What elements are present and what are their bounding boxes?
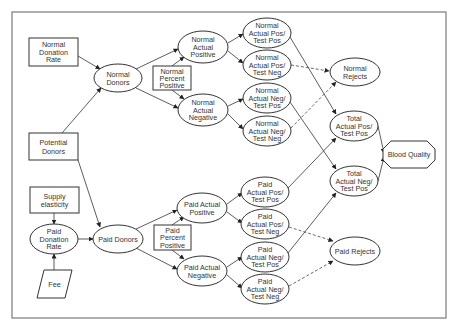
- svg-text:Test Pos: Test Pos: [253, 36, 281, 45]
- svg-text:Test Neg: Test Neg: [253, 68, 281, 77]
- svg-text:Positive: Positive: [189, 208, 214, 217]
- blood-donation-flow-diagram: Normal Donation Rate Potential Donors Su…: [0, 0, 455, 330]
- node-paid-donors: Paid Donors: [93, 225, 143, 253]
- node-paid-actual-neg-test-pos: Paid Actual Neg/ Test Pos: [241, 242, 289, 272]
- node-paid-donation-rate: Paid Donation Rate: [30, 224, 78, 254]
- node-paid-actual-pos-test-neg: Paid Actual Pos/ Test Neg: [241, 209, 289, 239]
- svg-text:Blood Quality: Blood Quality: [388, 150, 431, 159]
- node-supply-elasticity: Supply elasticity: [30, 187, 79, 213]
- node-total-actual-pos-test-pos: Total Actual Pos/ Test Pos: [330, 111, 378, 141]
- svg-text:Test Neg: Test Neg: [251, 292, 279, 301]
- node-normal-actual-positive: Normal Actual Positive: [178, 31, 228, 63]
- node-normal-actual-pos-test-pos: Normal Actual Pos/ Test Pos: [243, 18, 291, 48]
- svg-text:Negative: Negative: [189, 113, 217, 122]
- node-normal-actual-neg-test-pos: Normal Actual Neg/ Test Pos: [243, 83, 291, 113]
- node-paid-actual-positive: Paid Actual Positive: [177, 193, 227, 223]
- svg-text:Rate: Rate: [46, 242, 61, 251]
- svg-text:Rate: Rate: [46, 55, 61, 64]
- node-normal-rejects: Normal Rejects: [330, 58, 380, 86]
- svg-text:Fee: Fee: [48, 280, 60, 289]
- svg-text:Positive: Positive: [159, 81, 184, 90]
- node-normal-percent-positive: Normal Percent Positive: [153, 66, 191, 90]
- node-normal-donors: Normal Donors: [94, 64, 142, 92]
- svg-text:Positive: Positive: [160, 241, 185, 250]
- svg-text:Donors: Donors: [42, 147, 66, 156]
- svg-text:Test Pos: Test Pos: [251, 260, 279, 269]
- node-total-actual-neg-test-pos: Total Actual Neg/ Test Pos: [330, 166, 378, 196]
- svg-text:Rejects: Rejects: [343, 72, 367, 81]
- node-normal-actual-negative: Normal Actual Negative: [178, 94, 228, 126]
- svg-text:Test Neg: Test Neg: [253, 134, 281, 143]
- svg-text:Paid Donors: Paid Donors: [98, 235, 138, 244]
- node-paid-percent-positive: Paid Percent Positive: [154, 225, 191, 250]
- node-paid-rejects: Paid Rejects: [330, 237, 380, 265]
- svg-text:Positive: Positive: [190, 50, 215, 59]
- node-normal-actual-pos-test-neg: Normal Actual Pos/ Test Neg: [243, 50, 291, 80]
- node-paid-actual-neg-test-neg: Paid Actual Neg/ Test Neg: [241, 274, 289, 304]
- node-normal-donation-rate: Normal Donation Rate: [29, 38, 78, 66]
- svg-text:Test Pos: Test Pos: [340, 129, 368, 138]
- svg-text:elasticity: elasticity: [41, 200, 69, 209]
- node-paid-actual-pos-test-pos: Paid Actual Pos/ Test Pos: [241, 177, 289, 207]
- svg-text:Donors: Donors: [106, 78, 130, 87]
- node-normal-actual-neg-test-neg: Normal Actual Neg/ Test Neg: [243, 116, 291, 146]
- node-potential-donors: Potential Donors: [29, 133, 78, 160]
- svg-text:Negative: Negative: [188, 271, 216, 280]
- node-paid-actual-negative: Paid Actual Negative: [177, 256, 227, 286]
- svg-text:Paid Rejects: Paid Rejects: [335, 247, 376, 256]
- svg-text:Test Pos: Test Pos: [251, 195, 279, 204]
- node-blood-quality: Blood Quality: [383, 141, 435, 168]
- svg-text:Test Pos: Test Pos: [340, 184, 368, 193]
- svg-text:Test Pos: Test Pos: [253, 101, 281, 110]
- svg-text:Test Neg: Test Neg: [251, 227, 279, 236]
